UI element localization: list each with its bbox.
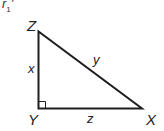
triangle-outline xyxy=(39,32,143,109)
right-triangle-figure: r1' Z Y X x y z xyxy=(0,0,164,131)
vertex-label-x: X xyxy=(146,112,156,127)
side-label-yx: z xyxy=(87,112,94,125)
vertex-label-y: Y xyxy=(28,112,38,127)
right-angle-marker xyxy=(39,102,46,109)
vertex-label-z: Z xyxy=(27,18,36,33)
side-label-zx: y xyxy=(93,53,100,66)
side-label-zy: x xyxy=(28,62,35,75)
triangle-drawing xyxy=(0,0,164,131)
